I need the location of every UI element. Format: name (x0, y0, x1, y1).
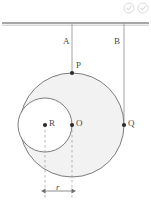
geometry-figure (0, 0, 151, 215)
point-marker-o (70, 123, 74, 127)
label-point-o: O (76, 119, 83, 128)
point-marker-p (70, 71, 74, 75)
check-circle-icon[interactable] (123, 2, 135, 14)
label-dimension-r: r (56, 183, 60, 192)
label-string-b: B (114, 37, 120, 46)
ceiling-line (2, 23, 149, 25)
check-circle-icon-secondary[interactable] (137, 2, 149, 14)
label-string-a: A (63, 37, 70, 46)
label-point-q: Q (128, 119, 135, 128)
label-point-p: P (76, 61, 81, 70)
point-marker-r (43, 123, 47, 127)
diagram-canvas: A B P O R Q r (0, 0, 151, 215)
overlay-icon-group (123, 2, 149, 14)
point-marker-q (122, 123, 126, 127)
label-point-r: R (49, 119, 55, 128)
